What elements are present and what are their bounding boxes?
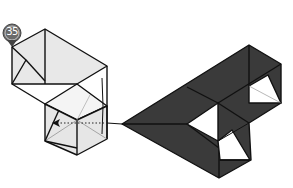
left-model-light	[12, 29, 107, 155]
right-model-dark	[122, 45, 281, 178]
origami-step-diagram: 35	[0, 0, 293, 188]
diagram-canvas	[0, 0, 293, 188]
step-number-label: 35	[3, 25, 21, 39]
